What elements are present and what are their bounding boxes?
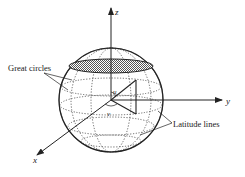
sphere-diagram: z y x u v Great circles Latitude lines [0,0,245,177]
angle-v-arc [105,104,117,106]
x-axis-label: x [32,155,37,165]
position-vector [111,80,136,114]
great-circles-label: Great circles [8,63,51,73]
z-axis-label: z [114,7,119,17]
y-axis-label: y [225,96,230,106]
angle-u-label: u [113,88,117,96]
latitude-lines-label: Latitude lines [173,119,220,129]
leader-lines [44,73,172,135]
